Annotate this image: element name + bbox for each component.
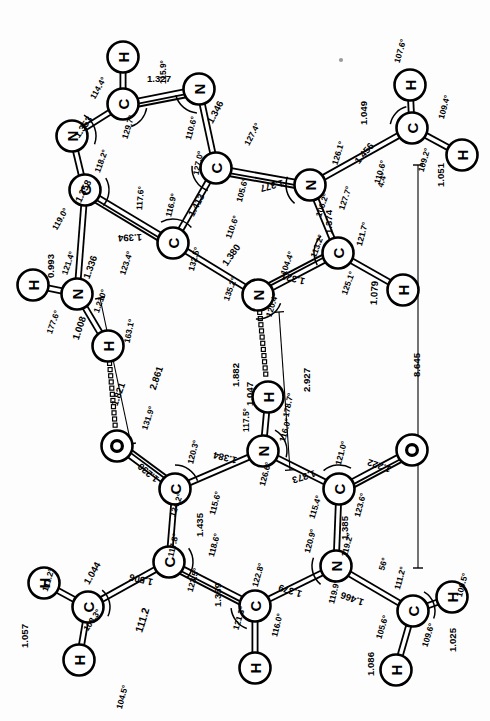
annotation-label-76: 56° bbox=[376, 556, 389, 571]
annotation-label-66: 124.2° bbox=[167, 492, 185, 518]
annotation-label-22: 1.336 bbox=[81, 254, 100, 280]
annotation-label-48: 1.079 bbox=[368, 281, 380, 306]
annotation-label-51: 1.821 bbox=[109, 380, 128, 407]
annotation-label-14: 105.6° bbox=[234, 177, 250, 203]
annotation-layer: 115.9°114.4°129.7°1.3271.353110.6°1.3461… bbox=[0, 0, 490, 721]
annotation-label-97: 1.086 bbox=[365, 652, 376, 676]
annotation-label-83: 111.2 bbox=[133, 606, 152, 634]
annotation-label-16: 116.9° bbox=[163, 192, 178, 218]
annotation-label-69: 123.6° bbox=[352, 492, 368, 518]
annotation-label-15: 119.0° bbox=[50, 206, 71, 232]
annotation-label-61: 1.384 bbox=[211, 450, 238, 467]
annotation-label-21: 1.380 bbox=[220, 242, 243, 268]
annotation-label-26: 177.6° bbox=[44, 309, 62, 335]
annotation-label-84: 104.5° bbox=[114, 684, 130, 710]
annotation-label-19: 123.4° bbox=[117, 250, 134, 276]
annotation-label-62: 126.6° bbox=[257, 461, 273, 487]
scan-speck bbox=[339, 58, 343, 62]
annotation-label-77: 111.2° bbox=[392, 565, 408, 590]
annotation-label-42: 127.7° bbox=[336, 185, 353, 211]
annotation-label-30: 120.4° bbox=[264, 292, 281, 318]
annotation-label-34: 1.456 bbox=[352, 140, 376, 165]
annotation-label-5: 110.6° bbox=[183, 115, 199, 141]
annotation-label-27: 1.008 bbox=[70, 314, 88, 341]
annotation-label-53: 1.882 bbox=[230, 363, 241, 387]
annotation-label-46: 121.7° bbox=[354, 221, 370, 247]
annotation-label-54: 2.927 bbox=[301, 368, 312, 392]
annotation-label-65: 1.222 bbox=[366, 457, 392, 475]
annotation-label-96: 109.5° bbox=[454, 572, 470, 598]
annotation-label-45: 113.2° bbox=[308, 233, 326, 259]
annotation-label-9: 127.4° bbox=[242, 121, 262, 147]
annotation-label-57: 178.7° bbox=[281, 392, 296, 418]
annotation-label-90: 1.466 bbox=[339, 590, 365, 609]
annotation-label-37: 107.6° bbox=[392, 38, 408, 64]
annotation-label-72: 117.8° bbox=[165, 532, 180, 557]
annotation-label-25: 1.210° bbox=[91, 288, 109, 314]
annotation-label-6: 1.346 bbox=[205, 99, 226, 125]
annotation-label-74: 120.9° bbox=[302, 528, 318, 554]
annotation-label-68: 1.435 bbox=[194, 512, 205, 537]
annotation-label-49: 8.645 bbox=[411, 352, 422, 377]
annotation-label-40: 1.051 bbox=[435, 162, 446, 187]
annotation-label-64: 121.0° bbox=[333, 440, 349, 466]
annotation-label-67: 115.6° bbox=[207, 490, 223, 516]
annotation-label-85: 123.5° bbox=[185, 567, 201, 593]
annotation-label-3: 1.327 bbox=[147, 73, 171, 84]
annotation-label-73: 118.6° bbox=[206, 532, 222, 558]
annotation-label-92: 116.0° bbox=[269, 612, 284, 638]
annotation-label-2: 129.7° bbox=[120, 114, 137, 140]
annotation-label-23: 121.4° bbox=[59, 250, 76, 276]
annotation-label-39: 109.2° bbox=[416, 147, 432, 173]
annotation-label-58: 116.0° bbox=[277, 417, 293, 443]
annotation-label-20: 132.5° bbox=[186, 246, 202, 272]
annotation-label-50: 2.861 bbox=[147, 364, 165, 391]
annotation-label-88: 1.379 bbox=[277, 582, 303, 600]
annotation-label-78: 1.044 bbox=[81, 559, 103, 586]
annotation-label-60: 1.230 bbox=[135, 461, 160, 485]
annotation-label-87: 122.8° bbox=[250, 562, 266, 588]
annotation-label-80: 1.506 bbox=[128, 572, 154, 588]
annotation-label-24: 0.993 bbox=[45, 254, 56, 278]
annotation-label-55: 1.047 bbox=[244, 382, 255, 406]
annotation-label-82: 1.057 bbox=[19, 624, 30, 648]
annotation-label-79: 111.2° bbox=[40, 567, 56, 592]
annotation-label-18: 1.394 bbox=[117, 232, 142, 244]
annotation-label-81: 108.3° bbox=[81, 607, 103, 633]
molecular-diagram-canvas: HCNNCCCNNHHCHNCHHCNHCCNCHCHHCHH 115.9°11… bbox=[0, 0, 490, 721]
annotation-label-56: 117.5° bbox=[241, 408, 251, 432]
annotation-label-17: 110.6° bbox=[223, 214, 241, 240]
annotation-label-63: 1.373 bbox=[291, 468, 317, 486]
annotation-label-95: 1.025 bbox=[447, 627, 458, 652]
annotation-label-4: 1.353 bbox=[72, 114, 95, 140]
annotation-label-13: 1.377 bbox=[259, 178, 285, 195]
annotation-label-8: 127.0° bbox=[191, 150, 206, 176]
annotation-label-1: 114.4° bbox=[88, 75, 109, 101]
annotation-label-29: 135.2° bbox=[221, 276, 239, 302]
annotation-label-33: 126.1° bbox=[330, 140, 347, 166]
annotation-label-12: 1.413 bbox=[186, 192, 207, 218]
annotation-label-28: 163.1° bbox=[122, 318, 137, 344]
annotation-label-44: 1.374 bbox=[323, 209, 334, 234]
annotation-label-32: 1.321 bbox=[279, 271, 306, 288]
annotation-label-70: 115.4° bbox=[307, 494, 324, 520]
annotation-label-86: 1.359 bbox=[212, 583, 223, 607]
annotation-label-94: 109.6° bbox=[420, 622, 437, 648]
annotation-label-91: 121.3° bbox=[231, 605, 248, 631]
annotation-label-47: 125.1° bbox=[339, 270, 357, 296]
annotation-label-10: 1.358 bbox=[73, 177, 94, 204]
annotation-label-59: 120.3° bbox=[185, 439, 201, 465]
annotation-label-7: 118.2° bbox=[92, 148, 110, 174]
annotation-label-38: 109.4° bbox=[436, 94, 452, 120]
annotation-label-11: 117.6° bbox=[134, 186, 146, 211]
annotation-label-36: 1.049 bbox=[358, 101, 369, 125]
annotation-label-52: 131.9° bbox=[139, 405, 156, 431]
annotation-label-93: 105.6° bbox=[374, 614, 391, 640]
